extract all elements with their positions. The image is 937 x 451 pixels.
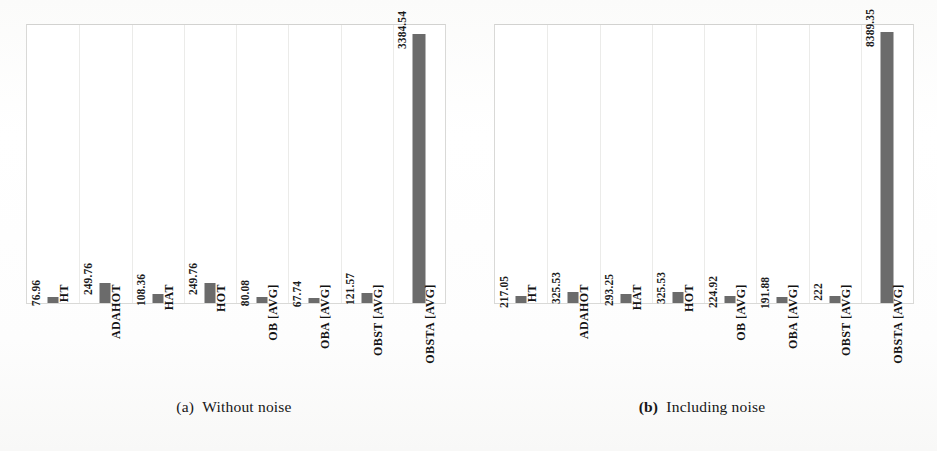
bar-slot: 191.88 (756, 25, 808, 303)
figure-container: 76.96249.76108.36249.7680.0867.74121.573… (0, 0, 937, 451)
bar-slot: 222 (809, 25, 861, 303)
bar-ht (48, 297, 59, 303)
bar-obst-avg (829, 296, 840, 303)
bar-value-label: 293.25 (603, 273, 615, 305)
bar-ob-avg (725, 296, 736, 303)
bar-obst-avg (361, 293, 372, 303)
bar-hot (672, 292, 683, 303)
bar-value-label: 222 (812, 283, 824, 301)
bar-adahot (100, 283, 111, 303)
bar-slot: 76.96 (27, 25, 79, 303)
bar-slot: 249.76 (79, 25, 131, 303)
bar-slots-a: 76.96249.76108.36249.7680.0867.74121.573… (27, 25, 445, 303)
bar-value-label: 121.57 (344, 273, 356, 305)
bar-value-label: 3384.54 (396, 11, 408, 49)
plot-area-b: 217.05325.53293.25325.53224.92191.882228… (494, 24, 914, 304)
bar-value-label: 249.76 (82, 263, 94, 295)
bar-obsta-avg (880, 32, 893, 303)
bar-value-label: 108.36 (135, 274, 147, 306)
bar-slot: 224.92 (704, 25, 756, 303)
bar-slot: 80.08 (236, 25, 288, 303)
bar-slot: 108.36 (132, 25, 184, 303)
bar-slot: 325.53 (652, 25, 704, 303)
bar-value-label: 224.92 (707, 276, 719, 308)
plot-area-a: 76.96249.76108.36249.7680.0867.74121.573… (26, 24, 446, 304)
panel-caption-a: (a) Without noise (0, 398, 468, 416)
caption-label-b: Including noise (666, 398, 765, 415)
caption-label-a: Without noise (202, 398, 291, 415)
bar-slot: 3384.54 (393, 25, 445, 303)
bar-value-label: 76.96 (30, 280, 42, 306)
bar-hat (152, 294, 163, 303)
bar-value-label: 80.08 (239, 279, 251, 305)
bar-adahot (568, 292, 579, 303)
bar-slot: 293.25 (600, 25, 652, 303)
caption-prefix-b: (b) (639, 398, 659, 415)
bar-slot: 121.57 (341, 25, 393, 303)
bar-slots-b: 217.05325.53293.25325.53224.92191.882228… (495, 25, 913, 303)
bar-value-label: 8389.35 (864, 9, 876, 47)
bar-value-label: 325.53 (655, 272, 667, 304)
bar-hot (204, 283, 215, 303)
bar-value-label: 191.88 (759, 277, 771, 309)
bar-value-label: 325.53 (550, 272, 562, 304)
bar-hat (620, 294, 631, 303)
bar-slot: 249.76 (184, 25, 236, 303)
bar-slot: 8389.35 (861, 25, 913, 303)
bar-obsta-avg (412, 34, 425, 303)
bar-value-label: 217.05 (498, 276, 510, 308)
bar-oba-avg (777, 297, 788, 303)
caption-prefix-a: (a) (176, 398, 194, 415)
panel-caption-b: (b) Including noise (468, 398, 936, 416)
bar-value-label: 67.74 (291, 280, 303, 306)
bar-ob-avg (257, 297, 268, 303)
bar-oba-avg (309, 298, 320, 303)
bar-value-label: 249.76 (187, 263, 199, 295)
bar-slot: 67.74 (288, 25, 340, 303)
bar-slot: 217.05 (495, 25, 547, 303)
chart-panel-a: 76.96249.76108.36249.7680.0867.74121.573… (0, 0, 468, 451)
chart-panel-b: 217.05325.53293.25325.53224.92191.882228… (468, 0, 936, 451)
bar-slot: 325.53 (547, 25, 599, 303)
bar-ht (516, 296, 527, 303)
